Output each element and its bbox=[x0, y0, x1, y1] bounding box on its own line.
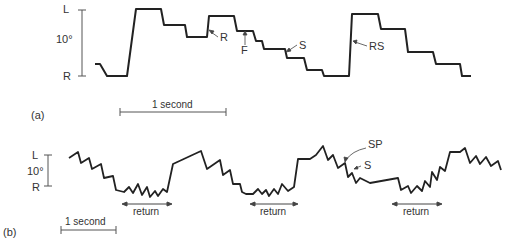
panel-a-trace bbox=[95, 9, 471, 76]
panel-a-annotation-arrows bbox=[209, 30, 367, 52]
annotation-rs: RS bbox=[369, 41, 384, 52]
annotation-sp: SP bbox=[368, 139, 383, 150]
return-label-1: return bbox=[133, 207, 159, 217]
panel-b-time-bar bbox=[61, 226, 116, 234]
panel-a-label: (a) bbox=[31, 110, 44, 121]
eye-movement-diagram bbox=[0, 0, 508, 241]
panel-a-time-label: 1 second bbox=[152, 100, 193, 110]
panel-b-scale-right-label: R bbox=[32, 182, 40, 193]
panel-a-scale-left-label: L bbox=[63, 4, 69, 15]
panel-b-trace bbox=[69, 146, 501, 197]
panel-a-scale-right-label: R bbox=[63, 71, 71, 82]
panel-b-annotation-arrows bbox=[344, 148, 366, 169]
panel-b-scale-bar bbox=[44, 155, 52, 186]
return-label-3: return bbox=[403, 207, 429, 217]
annotation-s: S bbox=[299, 40, 306, 51]
panel-b-scale-left-label: L bbox=[32, 150, 38, 161]
annotation-s-b: S bbox=[364, 160, 371, 171]
panel-a-scale-bar bbox=[78, 10, 86, 76]
panel-b-time-label: 1 second bbox=[65, 217, 106, 227]
annotation-f: F bbox=[241, 45, 248, 56]
panel-b-label: (b) bbox=[3, 227, 16, 238]
return-label-2: return bbox=[260, 207, 286, 217]
annotation-r: R bbox=[220, 32, 228, 43]
panel-b-scale-degrees-label: 10° bbox=[27, 166, 44, 177]
panel-a-scale-degrees-label: 10° bbox=[56, 34, 73, 45]
